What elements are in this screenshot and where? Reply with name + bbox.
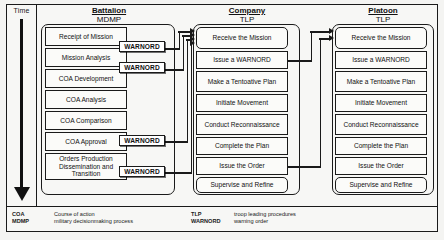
legend-abbr-warnord: WARNORD	[191, 218, 221, 225]
legend-def-tlp: troop leading procedures	[234, 211, 296, 218]
connector-w4-v	[191, 43, 193, 173]
diagram-root: Time Battalion MDMP Company TLP Platoon …	[0, 0, 444, 240]
battalion-subtitle: MDMP	[40, 15, 178, 24]
legend-def-warnord: warning order	[234, 218, 268, 225]
connector-c1-h1	[288, 60, 312, 62]
connector-w3-h1	[163, 141, 188, 143]
connector-c1-v	[311, 31, 313, 61]
platoon-step-1[interactable]: Receive the Mission	[335, 27, 427, 49]
company-title: Company	[192, 6, 302, 15]
platoon-step-3[interactable]: Make a Tentoative Plan	[335, 71, 427, 92]
time-axis-label: Time	[6, 7, 37, 14]
connector-w3-v	[187, 39, 189, 142]
company-step-5[interactable]: Conduct Reconnaissance	[196, 114, 288, 135]
battalion-step-1[interactable]: Receipt of Mission	[45, 27, 127, 46]
platoon-step-5[interactable]: Conduct Reconnaissance	[335, 114, 427, 135]
legend-abbr-coa: COA	[12, 211, 24, 218]
warnord-tag-2[interactable]: WARNORD	[119, 62, 165, 73]
arrowhead-c1-icon	[329, 28, 334, 34]
company-subtitle: TLP	[192, 15, 302, 24]
connector-w1-v	[179, 31, 181, 49]
company-step-3[interactable]: Make a Tentoative Plan	[196, 71, 288, 92]
connector-c2-h1	[288, 166, 321, 168]
company-step-4[interactable]: Initiate Movement	[196, 94, 288, 112]
warnord-tag-3[interactable]: WARNORD	[119, 135, 165, 146]
company-step-1[interactable]: Receive the Mission	[196, 27, 288, 49]
legend-def-coa: Course of action	[54, 211, 95, 218]
battalion-step-6[interactable]: COA Approval	[45, 132, 127, 151]
connector-w4-h1	[163, 172, 192, 174]
column-header-platoon: Platoon TLP	[330, 6, 436, 24]
battalion-step-3[interactable]: COA Development	[45, 69, 127, 88]
connector-c2-v	[320, 38, 322, 167]
battalion-title: Battalion	[40, 6, 178, 15]
platoon-step-2[interactable]: Issue a WARNORD	[335, 51, 427, 69]
column-header-battalion: Battalion MDMP	[40, 6, 178, 24]
platoon-step-8[interactable]: Supervise and Refine	[335, 177, 427, 193]
platoon-step-7[interactable]: Issue the Order	[335, 157, 427, 175]
battalion-step-4[interactable]: COA Analysis	[45, 90, 127, 109]
connector-w2-v	[183, 35, 185, 70]
company-step-2[interactable]: Issue a WARNORD	[196, 51, 288, 69]
platoon-title: Platoon	[330, 6, 436, 15]
warnord-tag-1[interactable]: WARNORD	[119, 41, 165, 52]
legend-def-mdmp: military decisionmaking process	[54, 218, 133, 225]
company-step-7[interactable]: Issue the Order	[196, 157, 288, 175]
platoon-step-4[interactable]: Initiate Movement	[335, 94, 427, 112]
legend: COA MDMP Course of action military decis…	[6, 207, 438, 232]
time-arrow-head-icon	[14, 187, 30, 201]
arrowhead-w4-icon	[190, 40, 195, 46]
connector-c1-h2	[310, 31, 331, 33]
arrowhead-c2-icon	[329, 35, 334, 41]
warnord-tag-4[interactable]: WARNORD	[119, 166, 165, 177]
battalion-step-7[interactable]: Orders Production Dissemination and Tran…	[45, 153, 127, 180]
time-arrow-shaft	[20, 19, 23, 191]
platoon-step-6[interactable]: Complete the Plan	[335, 137, 427, 155]
company-step-8[interactable]: Supervise and Refine	[196, 177, 288, 193]
battalion-step-5[interactable]: COA Comparison	[45, 111, 127, 130]
connector-w2-h1	[163, 69, 184, 71]
legend-abbr-tlp: TLP	[191, 211, 202, 218]
connector-w1-h1	[163, 48, 180, 50]
company-step-6[interactable]: Complete the Plan	[196, 137, 288, 155]
time-axis-column: Time	[6, 4, 37, 207]
battalion-step-2[interactable]: Mission Analysis	[45, 48, 127, 67]
platoon-subtitle: TLP	[330, 15, 436, 24]
legend-abbr-mdmp: MDMP	[12, 218, 29, 225]
column-header-company: Company TLP	[192, 6, 302, 24]
